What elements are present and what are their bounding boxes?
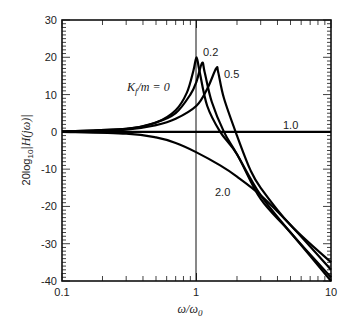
y-tick-label: 10 [45, 89, 57, 101]
y-tick-label: 0 [51, 126, 57, 138]
y-tick-label: 30 [45, 14, 57, 26]
x-tick-label-1: 1 [193, 286, 199, 298]
annotation-0.2: 0.2 [203, 46, 218, 58]
x-tick-label-10: 10 [325, 286, 337, 298]
y-tick-label: -10 [41, 163, 57, 175]
y-axis-label: 20log10|H(jω)| [19, 115, 35, 186]
x-axis-label: ω/ω0 [178, 302, 203, 318]
y-tick-label: -30 [41, 238, 57, 250]
annotation-kf-m-0: Kf/m = 0 [126, 80, 170, 96]
x-tick-label-0.1: 0.1 [54, 286, 69, 298]
y-tick-labels: 3020100-10-20-30-40 [41, 14, 57, 287]
y-tick-label: 20 [45, 51, 57, 63]
svg-text:20log10|H(jω)|: 20log10|H(jω)| [19, 115, 35, 186]
annotation-2.0: 2.0 [215, 186, 230, 198]
frequency-response-chart: 3020100-10-20-30-40 0.1 1 10 ω/ω0 20log1… [0, 0, 351, 327]
annotation-0.5: 0.5 [224, 68, 239, 80]
annotation-1.0: 1.0 [283, 119, 298, 131]
y-tick-label: -20 [41, 200, 57, 212]
